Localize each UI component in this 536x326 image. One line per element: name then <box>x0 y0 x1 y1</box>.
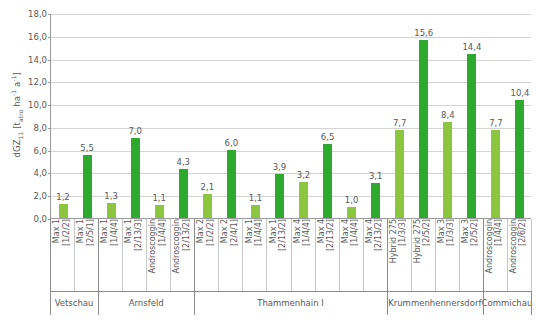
x-axis-label-cell: Max 1[1/4/4] <box>242 219 266 291</box>
bar[interactable] <box>371 183 380 218</box>
bar-slot[interactable]: 6,0 <box>219 14 243 218</box>
x-axis-label-cell: Hybrid 275[1/3/3] <box>387 219 411 291</box>
x-axis-label-name: Androscoggin <box>173 219 181 276</box>
bar-value-label: 1,1 <box>152 193 166 203</box>
x-axis-label-code: [1/4/4] <box>255 219 263 248</box>
x-axis-label-name: Hybrid 275 <box>414 219 422 265</box>
bar[interactable] <box>59 204 68 218</box>
bar-value-label: 3,1 <box>369 171 383 181</box>
bar-value-label: 15,6 <box>414 28 433 38</box>
x-axis-labels: Max 1[1/2/2]Max 1[2/5/1]Max 1[1/4/4]Max … <box>50 219 531 291</box>
bar[interactable] <box>251 205 260 218</box>
group-label: Vetschau <box>50 291 98 315</box>
bar-slot[interactable]: 1,1 <box>243 14 267 218</box>
bar-value-label: 1,1 <box>249 193 263 203</box>
bar-slot[interactable]: 1,0 <box>340 14 364 218</box>
bar-slot[interactable]: 5,5 <box>75 14 99 218</box>
bar[interactable] <box>131 138 140 218</box>
bar-value-label: 6,5 <box>321 132 335 142</box>
bar-value-label: 7,0 <box>128 126 142 136</box>
x-axis-label-name: Max 1 <box>270 219 278 245</box>
bar-value-label: 1,3 <box>104 191 118 201</box>
bar[interactable] <box>419 40 428 218</box>
bar-slot[interactable]: 2,1 <box>195 14 219 218</box>
y-axis-title: dGZ11 [tatro ha-1 a-1] <box>10 50 24 180</box>
x-axis-label-name: Max 4 <box>294 219 302 245</box>
x-axis-separator <box>122 219 123 291</box>
x-axis-separator <box>339 219 340 291</box>
y-axis-tick-label: 12,0 <box>28 77 47 87</box>
bar[interactable] <box>203 194 212 218</box>
bar-slot[interactable]: 6,5 <box>316 14 340 218</box>
bar-slot[interactable]: 1,3 <box>99 14 123 218</box>
x-axis-label-name: Max 4 <box>342 219 350 245</box>
x-axis-label-name: Max 3 <box>462 219 470 245</box>
bar-slot[interactable]: 8,4 <box>436 14 460 218</box>
bar[interactable] <box>275 174 284 218</box>
x-axis-label-cell: Max 2[1/2/2] <box>194 219 218 291</box>
x-axis-separator <box>411 219 412 291</box>
bar-slot[interactable]: 4,3 <box>171 14 195 218</box>
x-axis-label-cell: Max 1[2/13/2] <box>266 219 290 291</box>
bar-slot[interactable]: 1,1 <box>147 14 171 218</box>
x-axis-label-cell: Hybrid 275[2/5/2] <box>411 219 435 291</box>
x-axis-label-cell: Max 4[2/13/2] <box>315 219 339 291</box>
bar-value-label: 7,7 <box>393 118 407 128</box>
bar-slot[interactable]: 3,2 <box>292 14 316 218</box>
x-axis-label-code: [2/4/1] <box>231 219 239 248</box>
bar[interactable] <box>515 100 524 218</box>
x-axis-separator <box>218 219 219 291</box>
x-axis-separator <box>74 219 75 291</box>
bar[interactable] <box>443 122 452 218</box>
bar-value-label: 1,0 <box>345 195 359 205</box>
bar-slot[interactable]: 7,7 <box>484 14 508 218</box>
bar-slot[interactable]: 14,4 <box>460 14 484 218</box>
x-axis-label-name: Max 1 <box>125 219 133 245</box>
y-axis-tick-label: 0,0 <box>33 214 47 224</box>
bar[interactable] <box>299 182 308 218</box>
x-axis-label-cell: Androscoggin[2/6/2] <box>507 219 531 291</box>
x-axis-label-name: Max 4 <box>366 219 374 245</box>
x-axis-label-cell: Max 1[1/2/2] <box>50 219 74 291</box>
bar[interactable] <box>323 144 332 218</box>
bar-slot[interactable]: 7,7 <box>388 14 412 218</box>
x-axis-label-code: [2/13/2] <box>375 219 383 253</box>
bar[interactable] <box>467 54 476 218</box>
x-axis-label-name: Max 3 <box>438 219 446 245</box>
bar[interactable] <box>491 130 500 218</box>
group-label: Commichau <box>483 291 531 315</box>
y-axis-tick-label: 16,0 <box>28 32 47 42</box>
bar-value-label: 14,4 <box>462 42 481 52</box>
bar-slot[interactable]: 3,9 <box>267 14 291 218</box>
x-axis-label-cell: Max 4[2/13/2] <box>363 219 387 291</box>
bar-value-label: 3,2 <box>297 170 311 180</box>
y-axis-tick-label: 4,0 <box>33 168 47 178</box>
x-axis-label-name: Max 2 <box>221 219 229 245</box>
x-axis-label-name: Hybrid 275 <box>390 219 398 265</box>
bar[interactable] <box>347 207 356 218</box>
bar-slot[interactable]: 1,2 <box>51 14 75 218</box>
x-axis-label-cell: Max 3[1/3/3] <box>435 219 459 291</box>
bar[interactable] <box>227 150 236 218</box>
x-axis-label-code: [1/3/3] <box>447 219 455 248</box>
x-axis-label-cell: Max 1[2/13/3] <box>122 219 146 291</box>
x-axis-label-code: [1/4/4] <box>351 219 359 248</box>
group-separator <box>50 291 51 315</box>
bar[interactable] <box>179 169 188 218</box>
x-axis-separator <box>459 219 460 291</box>
group-label: Arnsfeld <box>98 291 194 315</box>
x-axis-label-name: Max 1 <box>53 219 61 245</box>
bar-slot[interactable]: 15,6 <box>412 14 436 218</box>
bar[interactable] <box>107 203 116 218</box>
bar-value-label: 10,4 <box>510 88 529 98</box>
bar[interactable] <box>395 130 404 218</box>
bar-value-label: 4,3 <box>177 157 191 167</box>
bar[interactable] <box>83 155 92 218</box>
bar-slot[interactable]: 7,0 <box>123 14 147 218</box>
bar-slot[interactable]: 3,1 <box>364 14 388 218</box>
bar[interactable] <box>155 205 164 218</box>
x-axis-label-code: [2/5/1] <box>87 219 95 248</box>
group-label: Thammenhain I <box>194 291 386 315</box>
bar-slot[interactable]: 10,4 <box>508 14 532 218</box>
group-separator <box>98 291 99 315</box>
